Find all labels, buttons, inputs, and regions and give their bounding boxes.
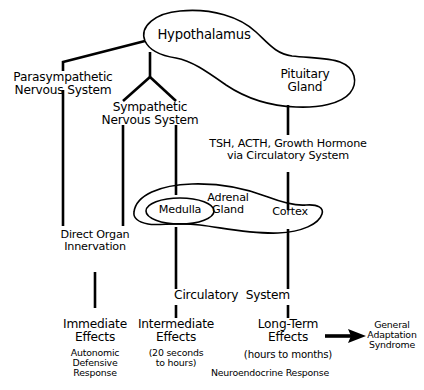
arrow-to-gas-icon (325, 329, 366, 343)
node-parasympathetic: Parasympathetic Nervous System (13, 71, 112, 97)
node-general-adaptation-syndrome: General Adaptation Syndrome (367, 320, 416, 350)
node-pituitary-gland: Pituitary Gland (280, 68, 329, 94)
node-adrenal-gland: Adrenal Gland (207, 192, 248, 216)
node-intermediate-effects: Intermediate Effects (138, 318, 214, 344)
node-medulla: Medulla (159, 204, 201, 216)
node-sympathetic: Sympathetic Nervous System (102, 101, 199, 127)
node-intermediate-effects-detail: (20 seconds to hours) (149, 348, 204, 368)
node-longterm-effects: Long‐Term Effects (258, 318, 319, 344)
edge-sympathetic-fork-right (150, 77, 176, 101)
node-neuroendocrine-response: Neuroendocrine Response (211, 368, 329, 378)
node-circulatory-system: Circulatory System (174, 289, 290, 302)
node-direct-organ-innervation: Direct Organ Innervation (61, 229, 130, 253)
node-hypothalamus: Hypothalamus (157, 28, 250, 42)
node-cortex: Cortex (272, 206, 308, 218)
node-hormones: TSH, ACTH, Growth Hormone via Circulator… (209, 138, 367, 162)
node-immediate-effects-detail: Autonomic Defensive Response (71, 348, 120, 378)
node-immediate-effects: Immediate Effects (63, 318, 127, 344)
edge-sympathetic-fork-left (123, 77, 150, 101)
edge-hypothalamus-parasympathetic (63, 41, 145, 71)
node-longterm-effects-detail: (hours to months) (244, 350, 332, 361)
